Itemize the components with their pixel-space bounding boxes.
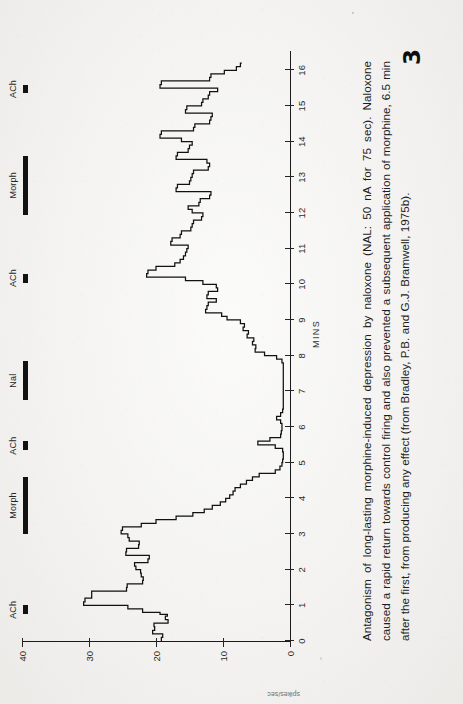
x-axis-tick-label: 12 — [296, 207, 307, 218]
y-axis-tick-label: 40 — [17, 651, 28, 677]
scanned-page: AChMorphAChNalAChMorphACh 01234567891011… — [0, 0, 463, 704]
y-axis-title: spikes/sec — [267, 691, 300, 698]
x-axis-tick-label: 16 — [296, 65, 307, 76]
scan-speck — [352, 12, 354, 14]
rotated-figure-container: AChMorphAChNalAChMorphACh 01234567891011… — [0, 0, 463, 704]
drug-label-ach: ACh — [8, 601, 18, 619]
x-axis-tick-label: 2 — [296, 567, 307, 572]
x-axis-tick-label: 10 — [296, 279, 307, 290]
page-number: 3 — [399, 49, 425, 65]
x-axis-tick-label: 14 — [296, 136, 307, 147]
x-axis-tick-label: 5 — [296, 460, 307, 465]
drug-label-ach: ACh — [8, 80, 18, 98]
y-axis-tick-label: 30 — [84, 651, 95, 677]
x-axis-tick-label: 8 — [296, 353, 307, 358]
x-axis-tick-label: 9 — [296, 317, 307, 322]
y-axis-tick — [290, 638, 291, 647]
y-axis-tick-label: 20 — [151, 651, 162, 677]
x-axis-tick-label: 13 — [296, 172, 307, 183]
y-axis-tick-label: 0 — [285, 651, 296, 677]
x-axis-tick-label: 0 — [296, 638, 307, 643]
x-axis-line — [290, 51, 291, 641]
x-axis-tick-label: 3 — [296, 531, 307, 536]
x-axis-tick-label: 11 — [296, 243, 307, 253]
x-axis-tick-label: 15 — [296, 100, 307, 111]
x-axis-tick-label: 6 — [296, 424, 307, 429]
x-axis-tick-label: 7 — [296, 389, 307, 394]
firing-rate-trace — [22, 56, 290, 641]
drug-label-nal: Nal — [8, 374, 18, 388]
drug-label-ach: ACh — [8, 437, 18, 455]
figure-caption: Antagonism of long-lasting morphine-indu… — [358, 61, 414, 641]
drug-label-morph: Morph — [8, 172, 18, 199]
x-axis-tick-label: 4 — [296, 496, 307, 501]
y-axis-tick-label: 10 — [218, 651, 229, 677]
scan-speck — [320, 657, 322, 660]
x-axis-title: MINS — [311, 320, 321, 348]
drug-label-ach: ACh — [8, 269, 18, 287]
figure-inner: AChMorphAChNalAChMorphACh 01234567891011… — [0, 0, 463, 704]
drug-label-morph: Morph — [8, 492, 18, 519]
x-axis-tick-label: 1 — [296, 603, 307, 608]
